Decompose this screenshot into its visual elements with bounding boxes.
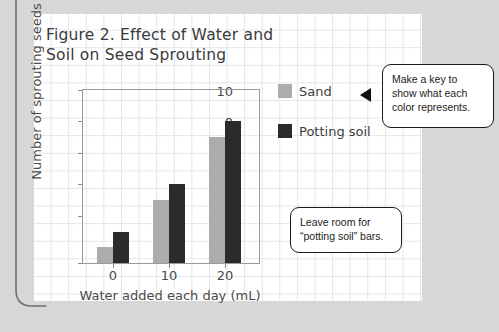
bar-group-10 bbox=[153, 90, 185, 263]
x-axis-title: Water added each day (mL) bbox=[40, 288, 300, 303]
legend-label-sand: Sand bbox=[299, 84, 332, 99]
bar-sand-10 bbox=[153, 200, 169, 263]
bar-sand-0 bbox=[97, 247, 113, 263]
bar-sand-20 bbox=[209, 137, 225, 263]
chart-legend: Sand Potting soil bbox=[278, 84, 371, 164]
callout-leave-room: Leave room for “potting soil” bars. bbox=[290, 207, 402, 253]
bar-soil-10 bbox=[169, 184, 185, 263]
screenshot-root: Figure 2. Effect of Water and Soil on Se… bbox=[0, 0, 499, 332]
legend-item-potting-soil: Potting soil bbox=[278, 124, 371, 138]
x-tick-label-10: 10 bbox=[149, 268, 189, 283]
chart-title: Figure 2. Effect of Water and Soil on Se… bbox=[46, 25, 296, 65]
bar-series-container bbox=[83, 90, 259, 263]
bar-group-0 bbox=[97, 90, 129, 263]
bar-group-20 bbox=[209, 90, 241, 263]
bar-soil-0 bbox=[113, 232, 129, 263]
callout-pointer-arrow-icon bbox=[360, 88, 371, 102]
bar-soil-20 bbox=[225, 121, 241, 263]
x-tick-label-20: 20 bbox=[205, 268, 245, 283]
legend-item-sand: Sand bbox=[278, 84, 371, 98]
x-tick-label-0: 0 bbox=[93, 268, 133, 283]
legend-swatch-sand bbox=[278, 84, 292, 98]
legend-swatch-potting-soil bbox=[278, 124, 292, 138]
legend-label-potting-soil: Potting soil bbox=[299, 124, 371, 139]
callout-make-a-key: Make a key to show what each color repre… bbox=[382, 64, 494, 128]
y-axis-title: Number of sprouting seeds bbox=[29, 0, 44, 190]
